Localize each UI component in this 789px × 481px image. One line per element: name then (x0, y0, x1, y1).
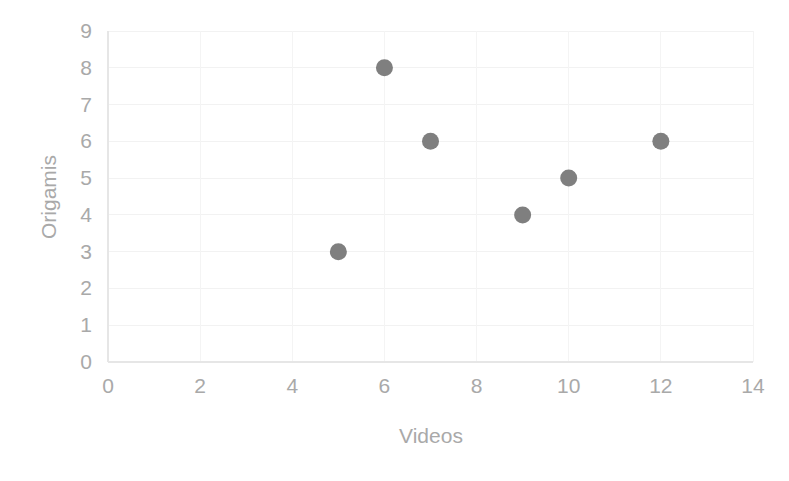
x-tick-label-14: 14 (741, 374, 765, 397)
y-tick-label-2: 2 (80, 276, 92, 299)
axis-lines (108, 31, 753, 362)
x-tick-label-0: 0 (102, 374, 114, 397)
y-tick-label-3: 3 (80, 240, 92, 263)
x-tick-label-2: 2 (194, 374, 206, 397)
y-tick-label-4: 4 (80, 203, 92, 226)
data-point (330, 243, 347, 260)
y-axis-tick-labels: 0123456789 (80, 19, 92, 373)
horizontal-gridlines (108, 31, 753, 362)
x-tick-label-12: 12 (649, 374, 672, 397)
x-tick-label-4: 4 (286, 374, 298, 397)
y-axis-title: Origamis (37, 155, 60, 239)
x-tick-label-10: 10 (557, 374, 580, 397)
vertical-gridlines (200, 31, 753, 362)
y-tick-label-1: 1 (80, 313, 92, 336)
y-tick-label-6: 6 (80, 129, 92, 152)
y-tick-label-9: 9 (80, 19, 92, 42)
data-point (514, 206, 531, 223)
y-tick-label-7: 7 (80, 93, 92, 116)
data-point-markers (330, 59, 669, 260)
x-tick-label-8: 8 (471, 374, 483, 397)
data-point (652, 133, 669, 150)
scatter-chart: 0123456789 02468101214 Videos Origamis (0, 0, 789, 481)
data-point (376, 59, 393, 76)
data-point (422, 133, 439, 150)
x-axis-title: Videos (399, 424, 463, 447)
x-axis-tick-labels: 02468101214 (102, 374, 765, 397)
y-tick-label-8: 8 (80, 56, 92, 79)
y-tick-label-5: 5 (80, 166, 92, 189)
chart-canvas: 0123456789 02468101214 Videos Origamis (0, 0, 789, 481)
data-point (560, 170, 577, 187)
y-tick-label-0: 0 (80, 350, 92, 373)
x-tick-label-6: 6 (379, 374, 391, 397)
